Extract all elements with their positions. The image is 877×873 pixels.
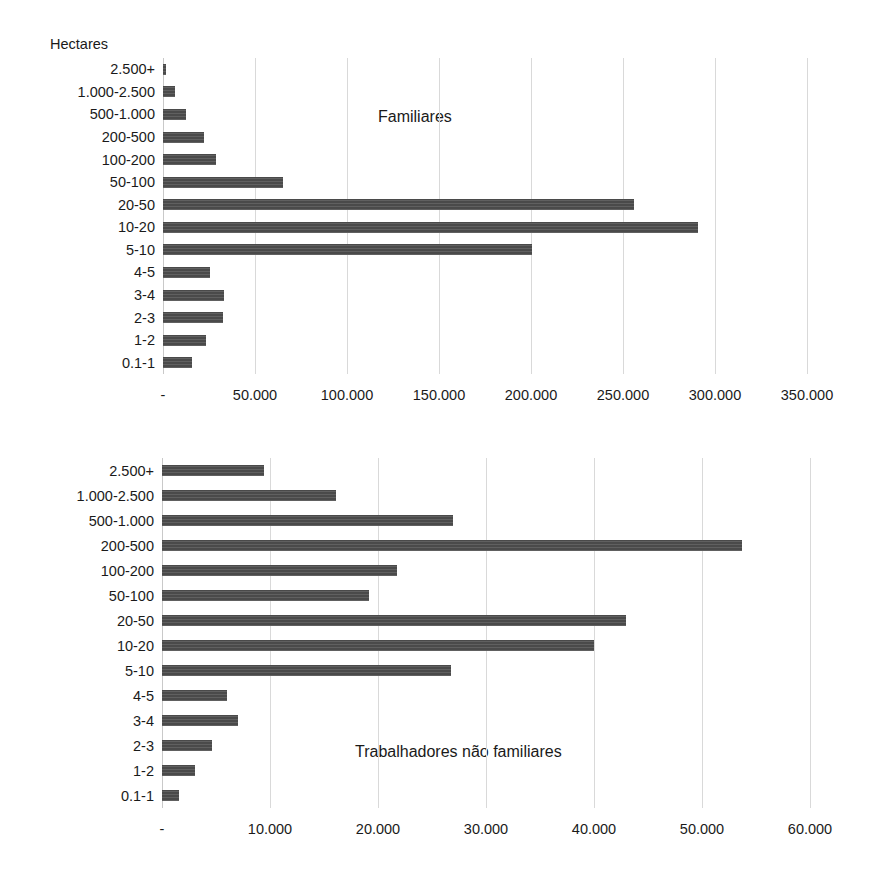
chart-page: Hectares Familiares 2.500+1.000-2.500500… bbox=[0, 0, 877, 873]
y-tick-label: 1.000-2.500 bbox=[0, 85, 155, 100]
y-tick-label: 4-5 bbox=[0, 265, 155, 280]
gridline bbox=[807, 58, 808, 374]
y-tick-label: 1-2 bbox=[0, 764, 154, 779]
x-tick-label: - bbox=[117, 822, 207, 837]
bar bbox=[163, 86, 175, 97]
bar bbox=[162, 490, 336, 501]
plot-area-familiares bbox=[163, 58, 807, 374]
bar-series-familiares bbox=[163, 58, 807, 374]
chart-familiares: Hectares Familiares 2.500+1.000-2.500500… bbox=[0, 0, 877, 420]
y-tick-label: 2.500+ bbox=[0, 62, 155, 77]
x-tick-label: 350.000 bbox=[762, 388, 852, 403]
bar bbox=[162, 790, 179, 801]
x-tick-label: 150.000 bbox=[394, 388, 484, 403]
y-tick-label: 1.000-2.500 bbox=[0, 489, 154, 504]
bar bbox=[162, 740, 212, 751]
y-tick-label: 10-20 bbox=[0, 639, 154, 654]
x-tick-label: 10.000 bbox=[225, 822, 315, 837]
bar bbox=[162, 465, 264, 476]
bar bbox=[163, 335, 206, 346]
x-tick-label: 50.000 bbox=[657, 822, 747, 837]
y-tick-label: 100-200 bbox=[0, 153, 155, 168]
x-tick-label: 40.000 bbox=[549, 822, 639, 837]
gridline bbox=[810, 458, 811, 808]
y-tick-label: 500-1.000 bbox=[0, 514, 154, 529]
x-tick-label: 300.000 bbox=[670, 388, 760, 403]
bar-series-trabalhadores bbox=[162, 458, 810, 808]
y-tick-label: 2-3 bbox=[0, 311, 155, 326]
x-tick-label: 250.000 bbox=[578, 388, 668, 403]
bar bbox=[163, 267, 210, 278]
y-tick-label: 5-10 bbox=[0, 664, 154, 679]
bar bbox=[163, 64, 166, 75]
y-tick-label: 500-1.000 bbox=[0, 107, 155, 122]
bar bbox=[163, 357, 192, 368]
y-axis-title-hectares: Hectares bbox=[50, 36, 108, 52]
bar bbox=[163, 290, 224, 301]
y-tick-label: 5-10 bbox=[0, 243, 155, 258]
y-tick-label: 20-50 bbox=[0, 614, 154, 629]
bar bbox=[162, 515, 453, 526]
bar bbox=[162, 615, 626, 626]
y-tick-label: 3-4 bbox=[0, 714, 154, 729]
y-tick-label: 1-2 bbox=[0, 333, 155, 348]
y-tick-label: 0.1-1 bbox=[0, 789, 154, 804]
bar bbox=[162, 565, 397, 576]
bar bbox=[162, 665, 451, 676]
bar bbox=[163, 177, 283, 188]
bar bbox=[163, 222, 698, 233]
y-tick-label: 50-100 bbox=[0, 589, 154, 604]
x-tick-label: 50.000 bbox=[210, 388, 300, 403]
x-tick-label: 100.000 bbox=[302, 388, 392, 403]
y-tick-label: 200-500 bbox=[0, 539, 154, 554]
bar bbox=[162, 590, 369, 601]
y-tick-label: 4-5 bbox=[0, 689, 154, 704]
bar bbox=[163, 199, 634, 210]
bar bbox=[163, 312, 223, 323]
x-tick-label: - bbox=[118, 388, 208, 403]
x-tick-label: 20.000 bbox=[333, 822, 423, 837]
bar bbox=[163, 154, 216, 165]
y-tick-label: 3-4 bbox=[0, 288, 155, 303]
y-tick-label: 100-200 bbox=[0, 564, 154, 579]
y-tick-label: 2-3 bbox=[0, 739, 154, 754]
bar bbox=[162, 640, 594, 651]
bar bbox=[162, 765, 195, 776]
bar bbox=[163, 132, 204, 143]
y-tick-label: 10-20 bbox=[0, 220, 155, 235]
bar bbox=[163, 109, 186, 120]
x-tick-label: 60.000 bbox=[765, 822, 855, 837]
x-tick-label: 30.000 bbox=[441, 822, 531, 837]
bar bbox=[162, 715, 238, 726]
y-tick-label: 20-50 bbox=[0, 198, 155, 213]
bar bbox=[162, 540, 742, 551]
bar bbox=[163, 244, 532, 255]
y-tick-label: 0.1-1 bbox=[0, 356, 155, 371]
chart-trabalhadores: Trabalhadores não familiares 2.500+1.000… bbox=[0, 430, 877, 873]
bar bbox=[162, 690, 227, 701]
y-tick-label: 200-500 bbox=[0, 130, 155, 145]
y-tick-label: 2.500+ bbox=[0, 464, 154, 479]
x-tick-label: 200.000 bbox=[486, 388, 576, 403]
y-tick-label: 50-100 bbox=[0, 175, 155, 190]
plot-area-trabalhadores bbox=[162, 458, 810, 808]
